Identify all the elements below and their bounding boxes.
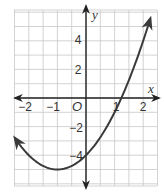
y-tick-label: 2 — [75, 64, 82, 76]
x-tick-label: −1 — [46, 101, 60, 113]
y-tick-label: 4 — [75, 34, 82, 46]
y-axis-label: y — [92, 9, 98, 21]
x-tick-label: 1 — [113, 101, 120, 113]
x-tick-label: −2 — [18, 101, 32, 113]
coordinate-plane — [0, 0, 164, 195]
x-axis-label: x — [148, 83, 154, 95]
x-tick-label: 2 — [140, 101, 147, 113]
y-tick-label: −4 — [69, 150, 83, 162]
origin-label: O — [72, 101, 82, 113]
y-tick-label: −2 — [69, 122, 83, 134]
